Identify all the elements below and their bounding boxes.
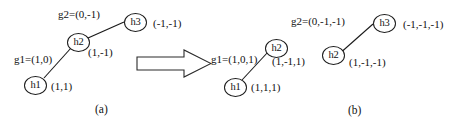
node-h2a-label: h2 (271, 43, 281, 54)
edge-label-g2: g2=(0,-1) (58, 9, 100, 20)
node-h2: h2 (67, 33, 90, 52)
edge-label-g2: g2=(0,-1,-1) (291, 16, 345, 27)
figure-canvas: g2=(0,-1) h3 (-1,-1) h2 (1,-1) g1=(1,0) … (0, 0, 470, 125)
node-h3-label: h3 (130, 17, 140, 28)
edge-label-g1: g1=(1,0,1) (211, 54, 258, 65)
node-h3-value: (-1,-1,-1) (403, 19, 443, 30)
node-h1-value: (1,1,1) (251, 82, 280, 93)
node-h3: h3 (124, 13, 147, 32)
node-h3-label: h3 (379, 18, 389, 29)
node-h1-label: h1 (230, 82, 240, 93)
panel-b: g2=(0,-1,-1) h3 (-1,-1,-1) h2 (1,-1,-1) … (210, 0, 470, 125)
node-h2-value: (1,-1) (88, 47, 113, 58)
node-h3-value: (-1,-1) (153, 18, 181, 29)
panel-a-caption: (a) (95, 104, 108, 116)
node-h2b: h2 (322, 46, 345, 65)
node-h1-value: (1,1) (51, 81, 72, 92)
node-h2a-value: (1,-1,1) (272, 56, 305, 67)
node-h3: h3 (373, 14, 396, 33)
node-h2b-label: h2 (328, 50, 338, 61)
node-h2b-value: (1,-1,-1) (349, 57, 386, 68)
node-h1: h1 (24, 76, 47, 95)
transform-arrow (136, 49, 212, 79)
edge-label-g1: g1=(1,0) (14, 54, 52, 65)
node-h1: h1 (224, 78, 247, 97)
node-h2-label: h2 (73, 37, 83, 48)
panel-b-caption: (b) (348, 105, 361, 117)
node-h1-label: h1 (30, 80, 40, 91)
edge-g2-line (88, 22, 124, 38)
right-arrow-icon (136, 49, 212, 79)
